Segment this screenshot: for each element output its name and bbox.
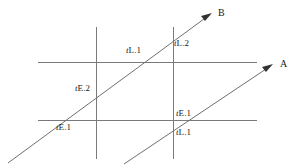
process-a-label: A xyxy=(280,59,287,69)
label-te1-right-rest: E.1 xyxy=(179,108,192,118)
figure-canvas: B A tL.1 tL.2 tE.2 tE.1 tE.1 tL.1 xyxy=(0,0,296,165)
diagram-svg xyxy=(0,0,296,165)
label-te1-left: tE.1 xyxy=(56,123,71,132)
label-tl1-lower-rest: L.1 xyxy=(179,127,192,137)
label-tl1-lower: tL.1 xyxy=(176,128,191,137)
label-tl2-rest: L.2 xyxy=(177,38,190,48)
process-b-label: B xyxy=(218,8,225,18)
label-tl2: tL.2 xyxy=(174,39,189,48)
label-te1-left-rest: E.1 xyxy=(59,122,72,132)
label-tl1-upper: tL.1 xyxy=(126,46,141,55)
label-te2: tE.2 xyxy=(75,84,90,93)
label-te2-rest: E.2 xyxy=(78,83,91,93)
label-te1-right: tE.1 xyxy=(176,109,191,118)
label-tl1-upper-rest: L.1 xyxy=(129,45,142,55)
process-b-timeline xyxy=(8,13,212,163)
horizontal-lines-group xyxy=(38,62,257,120)
process-a-line xyxy=(124,67,269,164)
process-a-timeline xyxy=(124,64,273,164)
